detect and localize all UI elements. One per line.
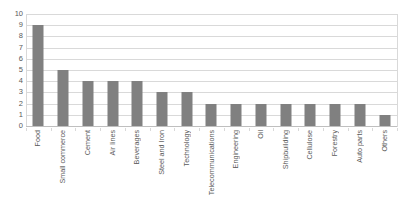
y-tick-label: 2 [0, 100, 23, 108]
bar-slot [51, 14, 76, 126]
x-tick-mark [100, 128, 101, 131]
x-tick-mark [26, 128, 27, 131]
y-tick-label: 10 [0, 10, 23, 18]
x-tick-label: Cellulose [306, 130, 314, 160]
bar[interactable] [354, 104, 365, 126]
bar-slot [372, 14, 397, 126]
x-tick-label-wrap: Small commerce [58, 130, 68, 222]
x-tick-mark [273, 128, 274, 131]
x-tick-mark [249, 128, 250, 131]
bar[interactable] [181, 92, 192, 126]
x-tick-mark [174, 128, 175, 131]
x-tick-label-wrap: Shipbuilding [281, 130, 291, 222]
bar[interactable] [330, 104, 341, 126]
plot-area [26, 14, 397, 126]
bar-slot [273, 14, 298, 126]
x-tick-mark [298, 128, 299, 131]
y-tick-label: 5 [0, 66, 23, 74]
x-tick-label-wrap: Food [33, 130, 43, 222]
bar[interactable] [231, 104, 242, 126]
y-tick-label: 9 [0, 21, 23, 29]
x-tick-label: Oil [257, 130, 265, 139]
bar[interactable] [305, 104, 316, 126]
x-tick-label-wrap: Oil [256, 130, 266, 222]
bar-slot [199, 14, 224, 126]
bar-slot [75, 14, 100, 126]
bar-slot [26, 14, 51, 126]
x-tick-label-wrap: Technology [182, 130, 192, 222]
bar[interactable] [82, 81, 93, 126]
x-tick-label: Food [34, 130, 42, 146]
x-tick-label-wrap: Air lines [108, 130, 118, 222]
x-tick-mark [51, 128, 52, 131]
bar[interactable] [132, 81, 143, 126]
plot-right-edge [397, 14, 398, 127]
x-tick-mark [348, 128, 349, 131]
bar-slot [100, 14, 125, 126]
x-tick-label-wrap: Cellulose [305, 130, 315, 222]
x-tick-label: Air lines [109, 130, 117, 156]
x-tick-mark [150, 128, 151, 131]
x-tick-label-wrap: Cement [83, 130, 93, 222]
x-tick-mark [372, 128, 373, 131]
x-tick-label: Auto parts [356, 130, 364, 163]
x-tick-mark [397, 128, 398, 131]
x-tick-mark [75, 128, 76, 131]
axis-baseline [26, 126, 397, 127]
bar-slot [348, 14, 373, 126]
x-tick-mark [125, 128, 126, 131]
x-tick-label: Technology [183, 130, 191, 166]
bar-slot [125, 14, 150, 126]
x-axis: FoodSmall commerceCementAir linesBeverag… [26, 128, 397, 223]
bar[interactable] [33, 25, 44, 126]
y-tick-label: 6 [0, 55, 23, 63]
y-tick-label: 7 [0, 44, 23, 52]
bar[interactable] [157, 92, 168, 126]
y-tick-label: 4 [0, 77, 23, 85]
x-tick-label-wrap: Beverages [132, 130, 142, 222]
x-tick-label: Forestry [331, 130, 339, 156]
x-tick-mark [323, 128, 324, 131]
x-tick-label: Others [381, 130, 389, 152]
x-tick-label: Beverages [133, 130, 141, 164]
x-tick-label: Steel and Iron [158, 130, 166, 175]
x-tick-label: Cement [84, 130, 92, 155]
x-tick-label: Shipbuilding [282, 130, 290, 169]
bar-slot [224, 14, 249, 126]
bar[interactable] [107, 81, 118, 126]
x-tick-label-wrap: Steel and Iron [157, 130, 167, 222]
y-tick-label: 0 [0, 122, 23, 130]
bar-slot [249, 14, 274, 126]
bar-slot [174, 14, 199, 126]
bar[interactable] [58, 70, 69, 126]
bar[interactable] [206, 104, 217, 126]
y-tick-label: 1 [0, 111, 23, 119]
bar[interactable] [255, 104, 266, 126]
x-tick-label: Small commerce [59, 130, 67, 184]
x-tick-label-wrap: Engineering [231, 130, 241, 222]
y-tick-label: 3 [0, 88, 23, 96]
x-tick-label-wrap: Auto parts [355, 130, 365, 222]
x-tick-label: Telecommunications [208, 130, 216, 195]
y-tick-label: 8 [0, 32, 23, 40]
x-tick-mark [224, 128, 225, 131]
x-tick-label-wrap: Telecommunications [207, 130, 217, 222]
bar[interactable] [379, 115, 390, 126]
bar-chart: 109876543210 FoodSmall commerceCementAir… [0, 0, 410, 223]
x-tick-label: Engineering [232, 130, 240, 168]
bar[interactable] [280, 104, 291, 126]
bar-slot [323, 14, 348, 126]
y-axis: 109876543210 [0, 0, 23, 223]
bar-slot [298, 14, 323, 126]
x-tick-label-wrap: Others [380, 130, 390, 222]
x-tick-label-wrap: Forestry [330, 130, 340, 222]
bar-slot [150, 14, 175, 126]
x-tick-mark [199, 128, 200, 131]
